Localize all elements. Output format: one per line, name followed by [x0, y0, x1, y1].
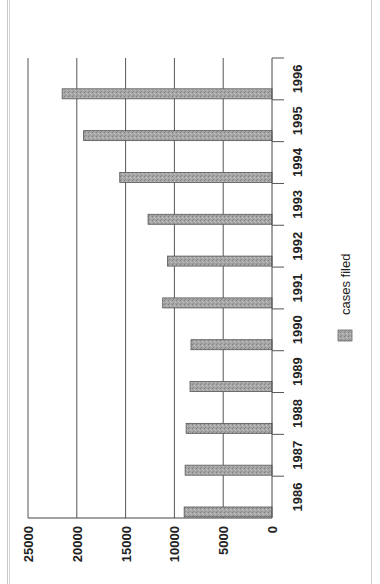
- bar-1994: [120, 172, 272, 182]
- category-label-1987: 1987: [290, 441, 305, 470]
- bar-1988: [186, 423, 272, 433]
- category-label-1994: 1994: [290, 147, 305, 177]
- category-label-1992: 1992: [290, 232, 305, 261]
- value-tick-label: 5000: [216, 526, 231, 555]
- axes: [28, 58, 284, 518]
- bar-1993: [148, 214, 272, 224]
- category-label-1990: 1990: [290, 315, 305, 344]
- bar-1990: [191, 340, 272, 350]
- value-tick-label: 0: [265, 526, 280, 533]
- bar-1992: [168, 256, 272, 266]
- value-tick-label: 10000: [167, 526, 182, 562]
- bar-1991: [163, 298, 272, 308]
- category-label-1995: 1995: [290, 106, 305, 135]
- category-label-1993: 1993: [290, 190, 305, 219]
- category-label-1996: 1996: [290, 64, 305, 93]
- category-label-1988: 1988: [290, 399, 305, 428]
- value-tick-label: 20000: [70, 526, 85, 562]
- category-label-1991: 1991: [290, 274, 305, 303]
- bar-1995: [84, 131, 272, 141]
- category-label-1986: 1986: [290, 483, 305, 512]
- bar-1989: [190, 382, 272, 392]
- bars: [62, 89, 272, 517]
- category-label-1989: 1989: [290, 357, 305, 386]
- bar-1987: [185, 465, 272, 475]
- bar-1986: [184, 507, 272, 517]
- legend-label: cases filed: [338, 254, 353, 315]
- legend: cases filed: [338, 254, 353, 341]
- bar-chart: 0500010000150002000025000198619871988198…: [0, 0, 380, 584]
- value-tick-label: 15000: [119, 526, 134, 562]
- value-tick-label: 25000: [21, 526, 36, 562]
- legend-swatch: [338, 330, 352, 341]
- gridlines: [28, 58, 223, 518]
- bar-1996: [62, 89, 272, 99]
